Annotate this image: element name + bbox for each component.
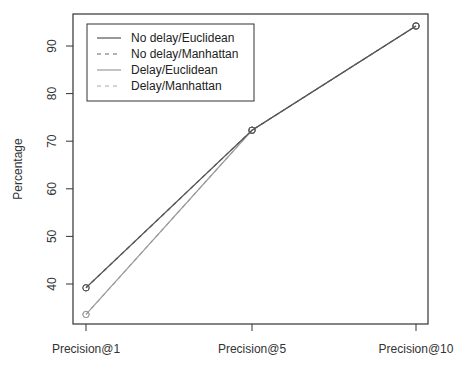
- y-axis: 405060708090: [45, 39, 73, 291]
- y-tick-label: 90: [45, 39, 59, 53]
- y-tick-label: 70: [45, 134, 59, 148]
- x-tick-label: Precision@5: [218, 342, 287, 356]
- legend-label: No delay/Manhattan: [131, 47, 238, 61]
- legend-label: Delay/Manhattan: [131, 79, 222, 93]
- legend-label: No delay/Euclidean: [131, 31, 234, 45]
- legend-label: Delay/Euclidean: [131, 63, 218, 77]
- x-tick-label: Precision@1: [52, 342, 121, 356]
- x-axis: Precision@1Precision@5Precision@10: [52, 324, 454, 356]
- y-tick-label: 50: [45, 229, 59, 243]
- y-tick-label: 40: [45, 277, 59, 291]
- line-chart: 405060708090 Precision@1Precision@5Preci…: [0, 0, 469, 376]
- y-tick-label: 80: [45, 87, 59, 101]
- x-tick-label: Precision@10: [379, 342, 454, 356]
- legend: No delay/Euclidean No delay/Manhattan De…: [87, 24, 254, 101]
- y-tick-label: 60: [45, 182, 59, 196]
- y-axis-title: Percentage: [11, 138, 25, 200]
